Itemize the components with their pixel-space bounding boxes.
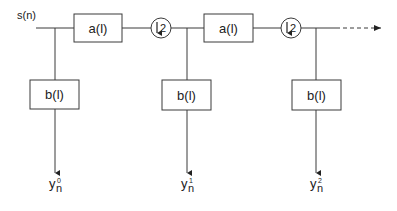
filter-a-label: a(l) xyxy=(89,21,108,36)
wavelet-filter-bank-diagram: s(n) a(l) b(l) y n 0 2 a(l) b(l) y xyxy=(0,0,397,211)
stage-0: a(l) b(l) y n 0 2 xyxy=(30,14,171,194)
filter-b-label: b(l) xyxy=(45,87,64,102)
filter-b-label: b(l) xyxy=(307,88,326,103)
stage-1: a(l) b(l) y n 1 2 xyxy=(162,14,301,194)
output-label-y2: y n 2 xyxy=(310,176,323,194)
svg-text:y: y xyxy=(181,176,188,191)
svg-text:2: 2 xyxy=(318,177,322,184)
filter-b-label: b(l) xyxy=(177,88,196,103)
downsampler-1: 2 xyxy=(151,18,171,38)
svg-text:1: 1 xyxy=(189,177,193,184)
svg-text:y: y xyxy=(49,176,56,191)
stage-2: b(l) y n 2 xyxy=(292,28,341,194)
downsampler-2: 2 xyxy=(281,18,301,38)
svg-text:0: 0 xyxy=(57,177,61,184)
svg-text:2: 2 xyxy=(290,22,296,34)
svg-text:2: 2 xyxy=(160,22,166,34)
output-label-y1: y n 1 xyxy=(181,176,194,194)
output-label-y0: y n 0 xyxy=(49,176,62,194)
input-signal-label: s(n) xyxy=(17,9,36,21)
filter-a-label: a(l) xyxy=(219,21,238,36)
svg-text:y: y xyxy=(310,176,317,191)
